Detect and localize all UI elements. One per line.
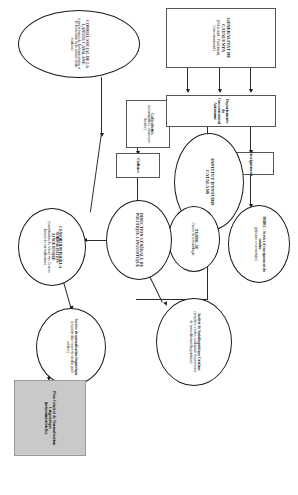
- node-generalitat-title: GENERALITAT DE CATALUNYA: [220, 12, 230, 64]
- node-plan-general[interactable]: Plan Général de Normalisation Linguistiq…: [14, 380, 86, 456]
- node-culture[interactable]: Culture: [116, 153, 160, 178]
- diagram-stage: GENERALITAT DE CATALUNYA (Président, Par…: [0, 0, 298, 495]
- node-conseil-social-subtitle: (représentants de l'administration et de…: [69, 18, 80, 70]
- node-sedec-subtitle: (primaire et secondaire): [253, 215, 257, 273]
- node-conseil-social[interactable]: CONSEIL SOCIAL DE LA LANGUE CATALANE (re…: [18, 10, 140, 78]
- node-collectivites-subtitle: (municipalités, communes locales): [142, 104, 149, 144]
- node-enseignement-title: Enseignement: [249, 151, 253, 176]
- node-dgpl-title: DIRECTION GÉNÉRALE DE POLITIQUE LINGUIST…: [135, 210, 144, 270]
- edge-dgpl-consortium: [86, 240, 108, 241]
- node-service-norm-subtitle: (en particulier cours de catalan pour ad…: [65, 318, 72, 376]
- edge-conseilsocial-right: [101, 77, 102, 134]
- edge-enseignement-sedec: [250, 175, 251, 205]
- node-collectivites[interactable]: Collectivités (municipalités, communes l…: [126, 100, 170, 148]
- node-institut-estudis-title: INSTITUT D'ESTUDIS CATALANS: [204, 151, 214, 213]
- node-termcat[interactable]: TERMCAT Centre de terminologie: [168, 206, 220, 272]
- node-dgpl[interactable]: DIRECTION GÉNÉRALE DE POLITIQUE LINGUIST…: [106, 200, 172, 280]
- node-service-normalisation[interactable]: Service de normalisation linguistique (e…: [36, 308, 106, 386]
- node-consortium-subtitle: (coordination du réseau des Centres loca…: [43, 218, 50, 276]
- node-generalitat-subtitle: (Président, Parlement, Gouvernement): [212, 12, 221, 64]
- node-departements-title: Departements du Gouvernement Autonome: [213, 98, 230, 124]
- node-culture-title: Culture: [136, 158, 141, 173]
- edge-generalitat-departements-3: [187, 68, 188, 90]
- node-termcat-subtitle: Centre de terminologie: [190, 215, 194, 263]
- node-institut-sociolinguistique[interactable]: Institut de Sociolinguistique Catalane (…: [156, 298, 232, 386]
- node-sedec-title: SEDEC : Service d'enseignement du catala…: [257, 215, 264, 273]
- node-consortium-title: CONSORTIUM POUR LA NORMALISATION LINGUIS…: [50, 218, 61, 276]
- diagram-canvas: GENERALITAT DE CATALUNYA (Président, Par…: [0, 0, 298, 495]
- arrow-head: [163, 301, 168, 306]
- node-plan-general-subtitle: (interministérielle): [44, 384, 48, 452]
- node-sedec[interactable]: SEDEC : Service d'enseignement du catala…: [228, 205, 290, 283]
- node-consortium[interactable]: CONSORTIUM POUR LA NORMALISATION LINGUIS…: [18, 208, 86, 286]
- edge-generalitat-departements-2: [219, 68, 220, 90]
- node-generalitat[interactable]: GENERALITAT DE CATALUNYA (Président, Par…: [166, 8, 276, 68]
- node-plan-general-title: Plan Général de Normalisation Linguistiq…: [48, 384, 57, 452]
- arrow-head: [187, 89, 191, 93]
- node-conseil-social-title: CONSEIL SOCIAL DE LA LANGUE CATALANE: [80, 18, 89, 70]
- edge-conseilsocial-diagonal: [90, 133, 102, 212]
- edge-culture-dgpl: [137, 178, 138, 201]
- arrow-head: [219, 89, 223, 93]
- node-departements[interactable]: Departements du Gouvernement Autonome: [166, 95, 276, 127]
- arrow-head: [250, 89, 254, 93]
- edge-generalitat-departements-1: [250, 68, 251, 90]
- node-institut-socio-subtitle: (enquêtes, études, évaluation du process…: [188, 310, 195, 374]
